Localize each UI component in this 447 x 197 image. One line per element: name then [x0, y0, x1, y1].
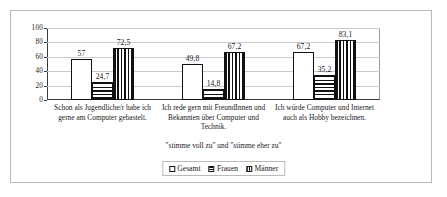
chart-legend: GesamtFrauenMänner [162, 161, 285, 176]
y-axis-tick-label: 20 [35, 82, 43, 90]
bar-frauen[interactable]: 24,7 [92, 82, 113, 100]
category-labels: Schon als Jugendliche/r habe ich gerne a… [47, 103, 380, 132]
legend-item-frauen[interactable]: Frauen [208, 164, 238, 173]
legend-label: Gesamt [177, 164, 200, 173]
bar-value-label: 67,2 [297, 42, 311, 51]
legend-label: Frauen [217, 164, 238, 173]
bar-value-label: 49,8 [186, 54, 200, 63]
bar-value-label: 24,7 [96, 72, 110, 81]
bar-frauen[interactable]: 35,2 [314, 75, 335, 100]
chart-root: 020406080100 5724,772,549,814,867,267,23… [0, 0, 447, 197]
category-label: Ich rede gern mit FreundInnen und Bekann… [158, 103, 269, 132]
bar-group: 5724,772,5 [47, 28, 158, 100]
legend-swatch-icon [246, 166, 252, 172]
legend-swatch-icon [208, 166, 214, 172]
y-axis-tick-label: 80 [35, 38, 43, 46]
bar-value-label: 35,2 [318, 65, 332, 74]
bar-value-label: 14,8 [207, 79, 221, 88]
bar-männer[interactable]: 72,5 [113, 48, 134, 100]
bar-groups: 5724,772,549,814,867,267,235,283,1 [47, 28, 380, 100]
bar-value-label: 83,1 [338, 30, 354, 39]
bar-value-label: 57 [78, 49, 86, 58]
y-axis-tick-label: 100 [32, 24, 43, 32]
legend-item-gesamt[interactable]: Gesamt [169, 164, 201, 173]
legend-label: Männer [255, 164, 279, 173]
category-label: Ich würde Computer und Internet auch als… [269, 103, 380, 132]
bar-group: 49,814,867,2 [158, 28, 269, 100]
bar-value-label: 67,2 [228, 42, 242, 51]
plot-wrapper: 020406080100 5724,772,549,814,867,267,23… [47, 28, 380, 100]
y-axis-tick-label: 0 [39, 96, 43, 104]
legend-item-männer[interactable]: Männer [246, 164, 278, 173]
bar-gesamt[interactable]: 57 [71, 59, 92, 100]
bar-männer[interactable]: 83,1 [335, 40, 356, 100]
bar-group: 67,235,283,1 [269, 28, 380, 100]
bar-value-label: 72,5 [117, 38, 131, 47]
y-axis-tick-mark [44, 100, 47, 101]
bar-gesamt[interactable]: 67,2 [293, 52, 314, 100]
bar-frauen[interactable]: 14,8 [203, 89, 224, 100]
category-label: Schon als Jugendliche/r habe ich gerne a… [47, 103, 158, 132]
bar-gesamt[interactable]: 49,8 [182, 64, 203, 100]
legend-swatch-icon [169, 166, 175, 172]
y-axis-tick-label: 60 [35, 53, 43, 61]
y-axis-tick-label: 40 [35, 67, 43, 75]
bar-männer[interactable]: 67,2 [224, 52, 245, 100]
x-axis-caption: "stimme voll zu" und "stimme eher zu" [0, 141, 447, 150]
